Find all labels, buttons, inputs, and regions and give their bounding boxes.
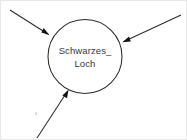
diagram-figure: Schwarzes_ Loch [1, 1, 187, 140]
edge-line-top-left [10, 10, 47, 34]
scan-artifact-speck [36, 112, 37, 115]
incoming-arrow-top-right[interactable] [122, 15, 181, 42]
node-label-line1: Schwarzes_ [59, 45, 112, 56]
edge-line-bottom-left [37, 92, 67, 138]
incoming-arrow-top-left[interactable] [10, 10, 50, 35]
arrowhead-top-right-icon [122, 37, 131, 43]
node-label-line2: Loch [74, 58, 95, 69]
schwarzes-loch-node[interactable] [48, 20, 122, 94]
incoming-arrow-bottom-left[interactable] [37, 89, 69, 138]
edge-line-top-right [125, 15, 181, 41]
diagram-canvas: Schwarzes_ Loch [0, 0, 187, 140]
arrowhead-top-left-icon [41, 28, 49, 35]
